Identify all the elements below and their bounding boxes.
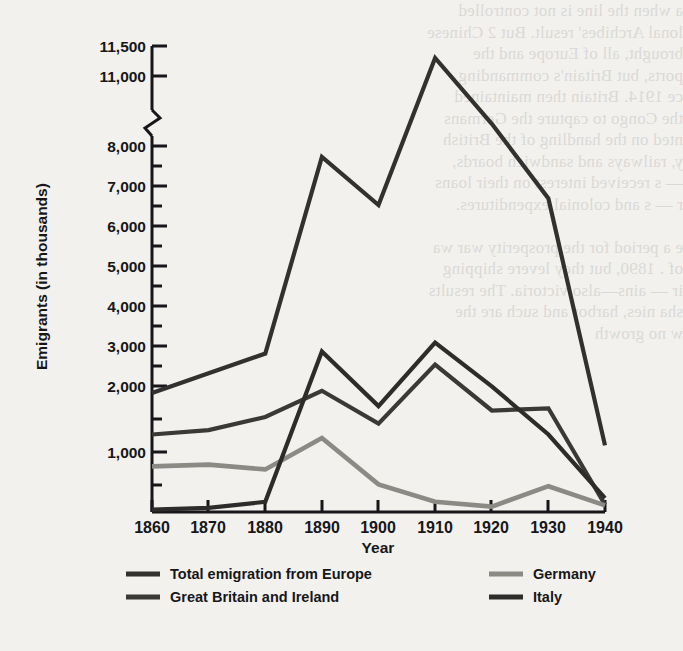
legend-item-great-britain-and-ireland: Great Britain and Ireland	[126, 589, 339, 605]
legend-label: Total emigration from Europe	[170, 566, 372, 582]
y-axis-title: Emigrants (in thousands)	[33, 183, 50, 370]
emigration-line-chart: 11,500 11,000 8,000 7,000 6,000 5,000 4,…	[0, 0, 683, 651]
series-line-germany	[152, 438, 605, 507]
legend-item-italy: Italy	[489, 589, 562, 605]
y-tick-label: 11,000	[99, 68, 146, 85]
legend-item-total-emigration-from-europe: Total emigration from Europe	[126, 566, 372, 582]
chart-page: a when the line is not controlled lonal …	[0, 0, 683, 651]
x-tick-label: 1920	[473, 519, 509, 536]
legend-item-germany: Germany	[489, 566, 596, 582]
x-tick-label: 1930	[530, 519, 566, 536]
y-tick-label: 11,500	[99, 38, 146, 55]
x-tick-label: 1910	[417, 519, 453, 536]
x-tick-label: 1870	[190, 519, 226, 536]
data-series-group	[152, 58, 605, 510]
x-axis-tick-labels: 1860 1870 1880 1890 1900 1910 1920 1930 …	[134, 519, 623, 536]
y-tick-label: 6,000	[107, 218, 146, 235]
y-tick-label: 8,000	[107, 138, 146, 155]
chart-legend: Total emigration from Europe Great Brita…	[126, 566, 596, 605]
y-axis	[145, 46, 160, 512]
series-line-total-emigration-from-europe	[152, 58, 605, 445]
legend-label: Italy	[533, 589, 562, 605]
x-tick-label: 1880	[247, 519, 283, 536]
y-tick-label: 7,000	[107, 178, 146, 195]
y-tick-label: 4,000	[107, 298, 146, 315]
y-axis-major-ticks: 11,500 11,000 8,000 7,000 6,000 5,000 4,…	[99, 38, 167, 461]
legend-label: Germany	[533, 566, 596, 582]
x-axis-title: Year	[362, 539, 395, 556]
x-tick-label: 1890	[304, 519, 340, 536]
y-tick-label: 2,000	[107, 378, 146, 395]
legend-label: Great Britain and Ireland	[170, 589, 339, 605]
y-tick-label: 5,000	[107, 258, 146, 275]
x-tick-label: 1900	[360, 519, 396, 536]
y-tick-label: 3,000	[107, 338, 146, 355]
y-tick-label: 1,000	[107, 444, 146, 461]
x-tick-label: 1860	[134, 519, 170, 536]
x-tick-label: 1940	[587, 519, 623, 536]
axis-break-zigzag	[145, 110, 160, 136]
